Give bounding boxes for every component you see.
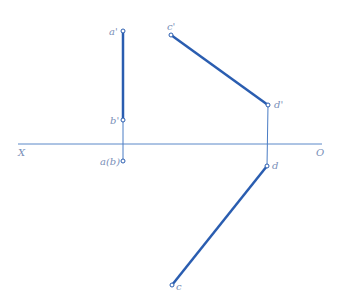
x-axis-label: X: [17, 147, 26, 158]
label-c-prime: c': [167, 21, 175, 32]
orthographic-projection-diagram: X O a' b' a(b) c' d' d c: [0, 0, 342, 308]
label-d-prime: d': [274, 99, 283, 110]
point-ab: [121, 159, 125, 163]
diagram-canvas: X O a' b' a(b) c' d' d c: [0, 0, 342, 308]
point-b-prime: [121, 118, 125, 122]
projector-line-cd: [267, 105, 268, 166]
label-ab: a(b): [100, 156, 120, 167]
segment-c-prime-d-prime: [171, 35, 268, 105]
point-d-prime: [266, 103, 270, 107]
point-d: [265, 164, 269, 168]
point-c: [170, 283, 174, 287]
segment-c-d: [172, 166, 267, 285]
origin-label: O: [316, 147, 324, 158]
label-d: d: [272, 160, 278, 171]
point-a-prime: [121, 29, 125, 33]
point-c-prime: [169, 33, 173, 37]
label-b-prime: b': [110, 115, 119, 126]
label-c: c: [176, 281, 182, 292]
label-a-prime: a': [109, 26, 118, 37]
